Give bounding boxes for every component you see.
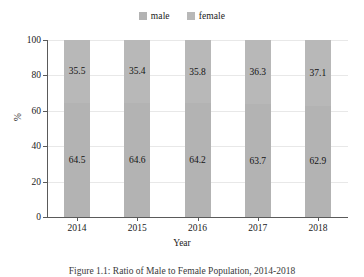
y-axis-title: % [13, 113, 23, 121]
y-tick-label: 0 [36, 212, 41, 222]
chart-legend: male female [0, 11, 364, 21]
plot-area: 64.535.564.635.464.235.863.736.362.937.1… [47, 40, 348, 217]
legend-swatch-female [187, 12, 195, 20]
x-tick-mark [258, 217, 259, 221]
x-tick-label: 2018 [308, 223, 327, 234]
y-axis-spine [47, 40, 48, 217]
x-tick-mark [318, 217, 319, 221]
bar-stack[interactable]: 64.635.4 [124, 40, 150, 217]
x-tick-mark [77, 217, 78, 221]
y-tick-label: 20 [32, 177, 42, 187]
bar-value-label-male: 62.9 [310, 156, 327, 166]
bar-value-label-female: 36.3 [249, 67, 266, 77]
y-tick-label: 100 [27, 35, 41, 45]
bar-value-label-female: 35.8 [189, 67, 206, 77]
bar-value-label-male: 64.2 [189, 155, 206, 165]
legend-label-male: male [151, 11, 170, 21]
y-tick-mark [43, 111, 47, 112]
bar-stack[interactable]: 62.937.1 [305, 40, 331, 217]
x-tick-label: 2017 [248, 223, 267, 234]
y-tick-mark [43, 217, 47, 218]
bar-stack[interactable]: 64.235.8 [185, 40, 211, 217]
x-axis-title: Year [0, 238, 364, 249]
y-tick-label: 40 [32, 141, 42, 151]
bar-value-label-female: 37.1 [310, 68, 327, 78]
x-tick-label: 2016 [188, 223, 207, 234]
y-tick-mark [43, 75, 47, 76]
legend-label-female: female [199, 11, 225, 21]
x-tick-mark [137, 217, 138, 221]
bar-value-label-male: 64.6 [129, 155, 146, 165]
bar-stack[interactable]: 63.736.3 [245, 40, 271, 217]
bar-value-label-female: 35.4 [129, 66, 146, 76]
legend-entry-female[interactable]: female [187, 11, 225, 21]
x-tick-mark [198, 217, 199, 221]
y-tick-mark [43, 182, 47, 183]
bar-value-label-female: 35.5 [69, 66, 86, 76]
bar-value-label-male: 64.5 [69, 155, 86, 165]
figure-caption: Figure 1.1: Ratio of Male to Female Popu… [0, 266, 364, 277]
y-tick-label: 80 [32, 70, 42, 80]
y-tick-mark [43, 146, 47, 147]
bar-value-label-male: 63.7 [249, 156, 266, 166]
x-tick-label: 2015 [128, 223, 147, 234]
y-tick-mark [43, 40, 47, 41]
legend-swatch-male [139, 12, 147, 20]
bar-stack[interactable]: 64.535.5 [64, 40, 90, 217]
y-tick-label: 60 [32, 106, 42, 116]
x-tick-label: 2014 [68, 223, 87, 234]
legend-entry-male[interactable]: male [139, 11, 170, 21]
